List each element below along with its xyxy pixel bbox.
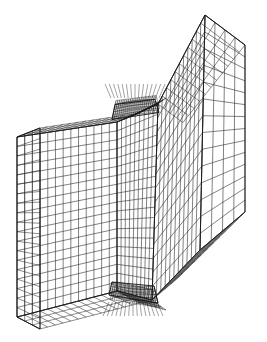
figure-canvas: finite-element-mesh-wireframe Notched pl…	[0, 0, 267, 342]
mesh-wireframe	[0, 0, 267, 342]
